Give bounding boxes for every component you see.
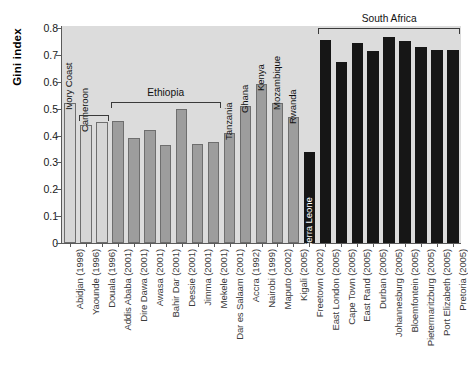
x-tick-mark [325, 243, 326, 247]
bar[interactable] [272, 103, 283, 243]
x-tick-mark [118, 243, 119, 247]
bar[interactable] [208, 142, 219, 243]
x-tick-mark [214, 243, 215, 247]
bar[interactable] [160, 145, 171, 243]
bar-country-label: Mozambique [271, 56, 282, 110]
bar[interactable] [288, 117, 299, 243]
bar[interactable] [80, 125, 91, 243]
y-tick-mark [56, 162, 61, 163]
x-tick-mark [421, 243, 422, 247]
y-tick-mark [56, 28, 61, 29]
bar-country-label: Rwanda [287, 90, 298, 125]
x-tick-label: Bloemfontein (2005) [409, 249, 420, 333]
x-tick-mark [134, 243, 135, 247]
bar[interactable] [192, 144, 203, 243]
x-tick-mark [246, 243, 247, 247]
bar-country-label: Kenya [255, 65, 266, 92]
x-tick-mark [453, 243, 454, 247]
bar[interactable] [367, 51, 378, 243]
bar[interactable] [112, 121, 123, 243]
x-tick-mark [309, 243, 310, 247]
x-tick-mark [357, 243, 358, 247]
x-tick-label: Douala (1996) [106, 249, 117, 308]
x-tick-label: East Rand (2005) [361, 249, 372, 322]
bar[interactable] [415, 47, 426, 243]
x-tick-mark [182, 243, 183, 247]
y-tick-mark [56, 189, 61, 190]
group-bracket [111, 102, 221, 108]
bar[interactable] [224, 133, 235, 243]
x-tick-label: Jimma (2001) [202, 249, 213, 306]
group-bracket [318, 28, 460, 34]
y-tick-label: 0.5 [0, 103, 58, 115]
x-tick-label: Bahir Dar (2001) [170, 249, 181, 318]
bar-country-label: Cameroon [79, 88, 90, 132]
bar[interactable] [336, 62, 347, 243]
x-tick-mark [230, 243, 231, 247]
x-tick-label: Cape Town (2005) [346, 249, 357, 325]
bar-country-label: Ivory Coast [63, 63, 74, 110]
bar[interactable] [176, 109, 187, 243]
y-tick-label: 0.6 [0, 76, 58, 88]
x-tick-label: Mekele (2001) [218, 249, 229, 308]
y-tick-label: 0.4 [0, 130, 58, 142]
x-tick-label: East London (2005) [330, 249, 341, 331]
y-tick-label: 0.1 [0, 210, 58, 222]
x-tick-label: Freetown (2002) [314, 249, 325, 317]
bar[interactable] [352, 43, 363, 243]
bar[interactable] [320, 40, 331, 243]
bar[interactable] [399, 41, 410, 243]
x-tick-label: Dire Dawa (2001) [138, 249, 149, 322]
x-tick-mark [405, 243, 406, 247]
x-tick-label: Dar es Salaam (2001) [234, 249, 245, 340]
bar[interactable] [431, 50, 442, 244]
y-tick-mark [56, 216, 61, 217]
y-tick-mark [56, 82, 61, 83]
x-tick-label: Dessie (2001) [186, 249, 197, 307]
x-tick-mark [341, 243, 342, 247]
x-tick-mark [277, 243, 278, 247]
y-tick-label: 0 [0, 237, 58, 249]
y-tick-mark [56, 136, 61, 137]
group-bracket [79, 115, 109, 121]
x-tick-label: Addis Ababa (2001) [122, 249, 133, 331]
x-tick-mark [198, 243, 199, 247]
x-tick-label: Abidjan (1998) [74, 249, 85, 309]
bar[interactable] [144, 130, 155, 243]
bar[interactable] [240, 106, 251, 243]
x-tick-label: Kigali (2005) [298, 249, 309, 301]
x-tick-label: Maputo (2002) [282, 249, 293, 309]
y-tick-label: 0.8 [0, 22, 58, 34]
y-tick-mark [56, 109, 61, 110]
bar-country-label: Ghana [239, 85, 250, 113]
bar[interactable] [447, 50, 458, 244]
x-tick-mark [293, 243, 294, 247]
x-tick-mark [166, 243, 167, 247]
x-tick-mark [86, 243, 87, 247]
x-tick-label: Port Elizabeth (2005) [441, 249, 452, 336]
x-tick-mark [262, 243, 263, 247]
x-tick-mark [102, 243, 103, 247]
x-tick-label: Pretoria (2005) [457, 249, 468, 311]
bar-country-label: Tanzania [223, 102, 234, 140]
bar[interactable] [96, 122, 107, 243]
bar[interactable] [128, 138, 139, 243]
y-tick-label: 0.3 [0, 156, 58, 168]
bar[interactable] [383, 37, 394, 243]
y-tick-mark [56, 55, 61, 56]
x-tick-label: Nairobi (1999) [266, 249, 277, 308]
group-bracket-label: South Africa [362, 13, 417, 24]
x-tick-mark [373, 243, 374, 247]
y-tick-label: 0.2 [0, 183, 58, 195]
x-tick-mark [150, 243, 151, 247]
y-axis-line [61, 26, 62, 244]
x-tick-label: Accra (1992) [250, 249, 261, 302]
bar[interactable] [64, 103, 75, 243]
y-tick-mark [56, 243, 61, 244]
x-tick-label: Awasa (2001) [154, 249, 165, 306]
bar[interactable] [256, 84, 267, 243]
x-tick-label: Durban (2005) [377, 249, 388, 309]
group-bracket-label: Ethiopia [147, 87, 184, 98]
x-tick-label: Johannesburg (2005) [393, 249, 404, 337]
